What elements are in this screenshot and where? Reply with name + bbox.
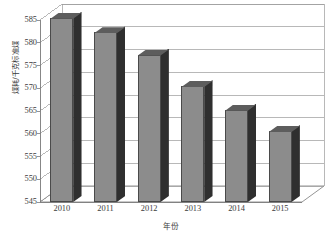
bar bbox=[94, 32, 117, 202]
bar bbox=[181, 86, 204, 202]
bar-chart: 煤耗/千克标准煤 545550555560565570575580585 201… bbox=[0, 0, 332, 241]
bar-side-face bbox=[204, 80, 212, 202]
x-axis-tick-labels: 201020112012201320142015 bbox=[40, 205, 302, 221]
x-axis-tick-label: 2015 bbox=[272, 205, 289, 213]
y-axis-tick-label: 555 bbox=[24, 152, 37, 160]
bar bbox=[225, 110, 248, 202]
y-axis-tick-label: 545 bbox=[24, 198, 37, 206]
y-axis-tick-label: 585 bbox=[24, 16, 37, 24]
y-axis-tick-label: 570 bbox=[24, 84, 37, 92]
x-axis-tick-label: 2010 bbox=[53, 205, 70, 213]
bar-front-face bbox=[138, 55, 161, 202]
bar-side-face bbox=[73, 12, 81, 202]
bar-front-face bbox=[50, 18, 73, 202]
x-axis-title: 年份 bbox=[40, 220, 302, 231]
y-axis-tick-label: 565 bbox=[24, 107, 37, 115]
bar-front-face bbox=[269, 131, 292, 202]
y-axis-tick-label: 550 bbox=[24, 175, 37, 183]
bar-series bbox=[40, 20, 302, 202]
y-axis-tick-label: 560 bbox=[24, 130, 37, 138]
y-axis-tick-labels: 545550555560565570575580585 bbox=[0, 0, 40, 205]
x-axis-tick-label: 2013 bbox=[184, 205, 201, 213]
x-axis-tick-label: 2011 bbox=[97, 205, 113, 213]
bar bbox=[269, 131, 292, 202]
bar-front-face bbox=[225, 110, 248, 202]
bar bbox=[50, 18, 73, 202]
bar-front-face bbox=[181, 86, 204, 202]
bar-side-face bbox=[292, 125, 300, 202]
x-axis-tick-label: 2012 bbox=[141, 205, 158, 213]
bar-side-face bbox=[161, 49, 169, 203]
bar-front-face bbox=[94, 32, 117, 202]
bar-side-face bbox=[117, 26, 125, 202]
bar-side-face bbox=[248, 104, 256, 202]
x-axis-tick-label: 2014 bbox=[228, 205, 245, 213]
y-axis-tick-label: 580 bbox=[24, 39, 37, 47]
plot-area bbox=[40, 20, 302, 202]
y-axis-tick-label: 575 bbox=[24, 61, 37, 69]
bar bbox=[138, 55, 161, 202]
